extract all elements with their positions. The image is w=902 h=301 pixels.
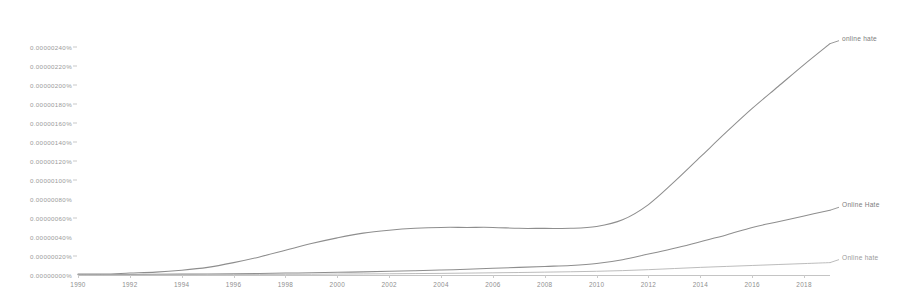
x-axis-tick xyxy=(700,275,701,278)
series-leader-line xyxy=(830,41,839,44)
series-line[interactable] xyxy=(78,44,830,274)
y-axis-tick xyxy=(73,103,77,104)
x-axis-tick xyxy=(182,275,183,278)
series-line[interactable] xyxy=(78,210,830,274)
y-axis-tick xyxy=(73,65,77,66)
x-axis-tick xyxy=(234,275,235,278)
y-axis-tick xyxy=(73,217,77,218)
x-axis-tick xyxy=(752,275,753,278)
series-leader-line xyxy=(830,207,839,210)
series-leader-line xyxy=(830,260,839,263)
y-axis-tick xyxy=(73,255,77,256)
x-axis-tick xyxy=(78,275,79,278)
series-label[interactable]: Online hate xyxy=(842,254,878,261)
y-axis-tick xyxy=(73,141,77,142)
y-axis-tick xyxy=(73,46,77,47)
x-axis-tick xyxy=(285,275,286,278)
y-axis-tick xyxy=(73,160,77,161)
plot-area xyxy=(0,0,902,301)
y-axis-tick xyxy=(73,179,77,180)
series-label[interactable]: online hate xyxy=(842,35,877,42)
x-axis-tick xyxy=(545,275,546,278)
y-axis-tick xyxy=(73,122,77,123)
ngram-chart: 0.00000000%0.00000020%0.00000040%0.00000… xyxy=(0,0,902,301)
x-axis-tick xyxy=(804,275,805,278)
x-axis-tick xyxy=(130,275,131,278)
x-axis-tick xyxy=(648,275,649,278)
x-axis-tick xyxy=(337,275,338,278)
x-axis-tick xyxy=(389,275,390,278)
x-axis-tick xyxy=(597,275,598,278)
series-line[interactable] xyxy=(78,263,830,275)
x-axis-tick xyxy=(441,275,442,278)
series-label[interactable]: Online Hate xyxy=(842,201,880,208)
x-axis-tick xyxy=(493,275,494,278)
y-axis-tick xyxy=(73,84,77,85)
